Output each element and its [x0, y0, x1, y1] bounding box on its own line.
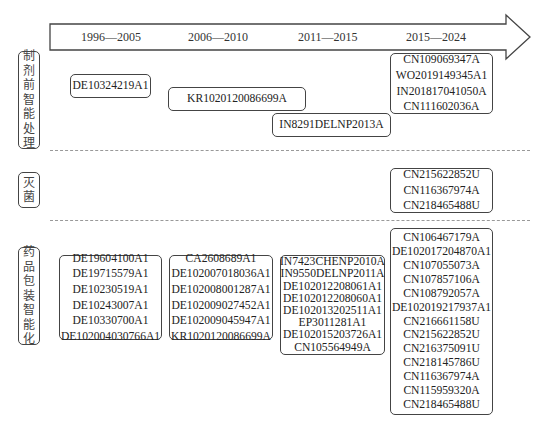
label-char: 理	[23, 136, 35, 151]
patent-id: CN115959320A	[403, 384, 479, 398]
patent-box-sterilization-2015: CN215622852U CN116367974A CN218465488U	[390, 168, 493, 213]
patent-id: IN9550DELNP2011A	[281, 268, 385, 280]
category-label-pre-formulation: 制 剂 前 智 能 处 理	[18, 51, 40, 149]
patent-id: CN106467179A	[403, 231, 480, 245]
patent-id: KR1020120086699A	[171, 329, 271, 345]
category-label-packaging: 药 品 包 装 智 能 化	[18, 247, 40, 345]
label-char: 品	[23, 260, 35, 275]
patent-box-pre-1996: DE10324219A1	[70, 74, 151, 98]
period-label-4: 2015—2024	[406, 30, 466, 45]
label-char: 能	[23, 107, 35, 122]
label-char: 处	[23, 122, 35, 137]
patent-id: CN218465488U	[403, 398, 480, 412]
label-char: 装	[23, 289, 35, 304]
patent-id: CN111602036A	[404, 99, 480, 115]
patent-id: CN109069347A	[403, 52, 480, 68]
patent-id: DE102009027452A1	[171, 298, 270, 314]
patent-id: IN8291DELNP2013A	[279, 117, 383, 133]
patent-id: DE102008001287A1	[171, 282, 270, 298]
patent-id: DE102017204870A1	[392, 245, 491, 259]
patent-id: DE102015203726A1	[283, 329, 382, 341]
section-divider-2	[50, 220, 530, 221]
patent-box-pack-2006: CA2608689A1 DE102007018036A1 DE102008001…	[169, 255, 273, 340]
patent-id: CN107055073A	[403, 259, 480, 273]
period-label-1: 1996—2005	[81, 30, 141, 45]
category-label-sterilization: 灭 菌	[18, 172, 40, 208]
patent-id: CN216375091U	[403, 342, 480, 356]
period-label-2: 2006—2010	[188, 30, 248, 45]
patent-id: CN215622852U	[403, 328, 480, 342]
patent-id: CA2608689A1	[186, 251, 257, 267]
patent-id: CN216661158U	[403, 315, 479, 329]
patent-box-pack-2015: CN106467179A DE102017204870A1 CN10705507…	[390, 228, 493, 415]
patent-id: CN215622852U	[403, 167, 480, 183]
label-char: 能	[23, 318, 35, 333]
patent-box-pack-1996: DE19604100A1 DE19715579A1 DE10230519A1 D…	[59, 255, 162, 340]
patent-id: CN218145786U	[403, 356, 480, 370]
patent-id: DE19715579A1	[73, 266, 149, 282]
patent-box-pre-2011: IN8291DELNP2013A	[272, 113, 391, 137]
patent-id: CN116367974A	[403, 370, 479, 384]
label-char: 前	[23, 78, 35, 93]
patent-id: DE10230519A1	[73, 282, 149, 298]
patent-id: CN105564949A	[294, 342, 371, 354]
label-char: 灭	[23, 176, 35, 191]
label-char: 药	[23, 245, 35, 260]
label-char: 包	[23, 274, 35, 289]
patent-id: IN201817041050A	[396, 84, 486, 100]
patent-id: DE102007018036A1	[171, 266, 270, 282]
patent-id: CN116367974A	[403, 183, 479, 199]
label-char: 菌	[23, 190, 35, 205]
label-char: 制	[23, 49, 35, 64]
label-char: 剂	[23, 64, 35, 79]
period-label-3: 2011—2015	[298, 30, 358, 45]
patent-id: CN218465488U	[403, 198, 480, 214]
patent-id: DE102012208061A1	[283, 281, 382, 293]
patent-id: DE10243007A1	[73, 298, 149, 314]
label-char: 化	[23, 332, 35, 347]
patent-id: DE102019217937A1	[392, 301, 491, 315]
label-char: 智	[23, 93, 35, 108]
patent-id: DE19604100A1	[73, 251, 149, 267]
patent-box-pre-2015: CN109069347A WO2019149345A1 IN2018170410…	[390, 53, 493, 114]
section-divider-1	[50, 150, 530, 151]
patent-id: DE102009045947A1	[171, 313, 270, 329]
label-char: 智	[23, 303, 35, 318]
patent-id: DE10324219A1	[73, 78, 149, 94]
patent-id: WO2019149345A1	[396, 68, 487, 84]
patent-id: CN107857106A	[403, 273, 480, 287]
patent-id: KR1020120086699A	[187, 91, 287, 107]
patent-id: DE10330700A1	[73, 313, 149, 329]
patent-id: DE102004030766A1	[61, 329, 160, 345]
patent-id: CN108792057A	[403, 287, 480, 301]
patent-box-pre-2006: KR1020120086699A	[168, 87, 306, 111]
patent-box-pack-2011: IN7423CHENP2010A IN9550DELNP2011A DE1020…	[280, 255, 385, 355]
